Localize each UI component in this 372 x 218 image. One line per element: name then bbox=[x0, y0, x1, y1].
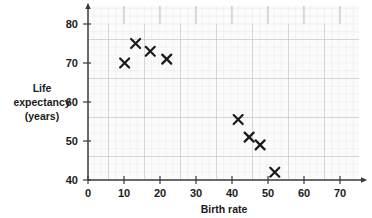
grid-lines-top bbox=[88, 6, 359, 24]
y-axis-title-line: Life bbox=[33, 82, 52, 94]
y-tick-label: 80 bbox=[66, 18, 78, 30]
x-tick-label: 20 bbox=[154, 187, 166, 199]
x-tick-label: 60 bbox=[298, 187, 310, 199]
y-axis-title: Life expectancy (years) bbox=[13, 82, 70, 122]
x-tick-label: 50 bbox=[262, 187, 274, 199]
x-tick-label: 10 bbox=[118, 187, 130, 199]
scatter-chart: 80 70 60 50 40 0 10 20 30 40 50 60 70 Bi… bbox=[0, 0, 372, 218]
y-tick-label: 70 bbox=[66, 57, 78, 69]
grid-lines bbox=[88, 24, 359, 180]
y-axis-title-line: expectancy bbox=[13, 96, 70, 108]
x-tick-label: 30 bbox=[190, 187, 202, 199]
y-axis-title-line: (years) bbox=[25, 110, 59, 122]
y-tick-label: 40 bbox=[66, 174, 78, 186]
x-axis-title: Birth rate bbox=[201, 203, 248, 215]
x-tick-label: 70 bbox=[334, 187, 346, 199]
x-tick-label: 0 bbox=[85, 187, 91, 199]
y-tick-label: 50 bbox=[66, 135, 78, 147]
x-axis-tick-labels: 0 10 20 30 40 50 60 70 bbox=[85, 187, 346, 199]
x-tick-label: 40 bbox=[226, 187, 238, 199]
